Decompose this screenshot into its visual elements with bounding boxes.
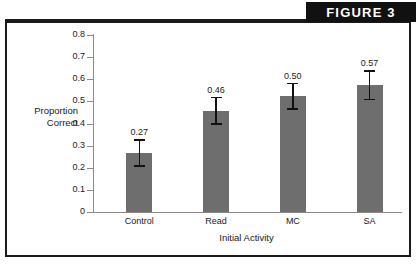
- x-axis-line: [93, 212, 402, 213]
- error-bar-cap-upper: [364, 70, 375, 72]
- error-bar-cap-upper: [134, 139, 145, 141]
- y-axis-tick: [87, 124, 93, 125]
- error-bar-stem: [215, 98, 217, 124]
- error-bar-cap-lower: [134, 165, 145, 167]
- y-axis-title-line-1: Proportion: [6, 105, 78, 117]
- x-axis-category-label: MC: [258, 216, 328, 226]
- error-bar-stem: [369, 71, 371, 100]
- figure-number-banner: FIGURE 3: [306, 2, 416, 22]
- bar: [280, 96, 306, 212]
- y-axis-tick-label: 0.3: [45, 141, 85, 150]
- bar-value-label: 0.57: [335, 58, 405, 68]
- bar-value-label: 0.50: [258, 71, 328, 81]
- bar-value-label: 0.46: [181, 85, 251, 95]
- bar-value-label: 0.27: [104, 127, 174, 137]
- bar: [357, 85, 383, 212]
- y-axis-tick-label: 0.2: [45, 163, 85, 172]
- y-axis-tick-label: 0.1: [45, 185, 85, 194]
- y-axis-tick-label: 0.4: [45, 119, 85, 128]
- y-axis-tick: [87, 79, 93, 80]
- error-bar-cap-lower: [364, 99, 375, 101]
- y-axis-tick-label: 0.5: [45, 96, 85, 105]
- y-axis-tick: [87, 101, 93, 102]
- y-axis-tick: [87, 190, 93, 191]
- bar: [203, 111, 229, 212]
- figure-container: FIGURE 3 Proportion Correct Initial Acti…: [0, 0, 420, 265]
- x-axis-title: Initial Activity: [93, 232, 400, 243]
- y-axis-tick: [87, 57, 93, 58]
- y-axis-tick: [87, 212, 93, 213]
- error-bar-cap-lower: [211, 123, 222, 125]
- error-bar-cap-upper: [287, 83, 298, 85]
- x-axis-category-label: Control: [104, 216, 174, 226]
- y-axis-tick-label: 0.7: [45, 52, 85, 61]
- x-axis-category-label: SA: [335, 216, 405, 226]
- y-axis-tick-label: 0.6: [45, 74, 85, 83]
- y-axis-tick: [87, 146, 93, 147]
- error-bar-stem: [292, 84, 294, 109]
- y-axis-tick: [87, 35, 93, 36]
- y-axis-tick-label: 0: [45, 207, 85, 216]
- y-axis-line: [93, 34, 94, 213]
- error-bar-stem: [139, 140, 141, 166]
- error-bar-cap-lower: [287, 108, 298, 110]
- y-axis-tick: [87, 168, 93, 169]
- error-bar-cap-upper: [211, 97, 222, 99]
- y-axis-tick-label: 0.8: [45, 30, 85, 39]
- x-axis-category-label: Read: [181, 216, 251, 226]
